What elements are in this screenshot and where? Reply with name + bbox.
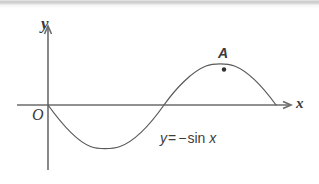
point-a-label: A: [218, 46, 228, 60]
equation-label: y=−sin x: [160, 131, 216, 145]
x-axis-label: x: [296, 96, 304, 111]
point-a-marker: [222, 67, 226, 71]
equation-function-name: sin: [187, 130, 205, 146]
equation-equals: =: [167, 130, 177, 146]
y-axis-label: y: [41, 15, 49, 32]
equation-minus-sign: −: [177, 130, 187, 146]
equation-argument: x: [209, 130, 216, 146]
origin-label: O: [32, 107, 44, 123]
figure-canvas: y x O A y=−sin x: [0, 0, 319, 184]
equation-lhs: y: [160, 130, 167, 146]
